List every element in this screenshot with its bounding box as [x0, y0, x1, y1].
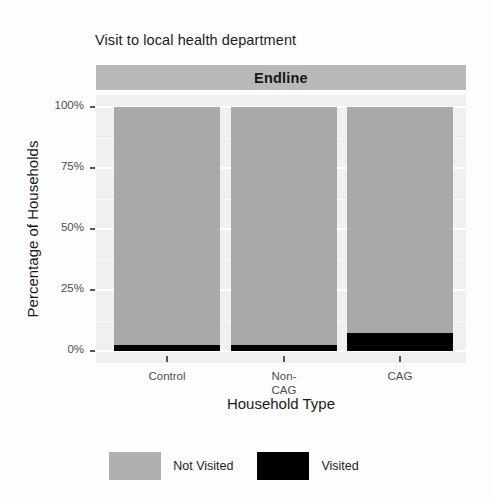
y-tick-mark — [90, 289, 95, 291]
bar-segment-visited — [347, 333, 453, 351]
bar-group — [114, 107, 220, 351]
bar-segment-not-visited — [114, 107, 220, 345]
legend-swatch — [257, 452, 309, 480]
legend-item[interactable]: Not Visited — [109, 452, 257, 480]
x-tick-label-line: CAG — [347, 369, 453, 383]
y-tick-label: 75% — [38, 160, 84, 172]
bar-segment-not-visited — [231, 107, 337, 345]
bar-segment-visited — [114, 345, 220, 351]
x-axis-title: Household Type — [96, 395, 466, 412]
y-tick-mark — [90, 106, 95, 108]
y-tick-mark — [90, 167, 95, 169]
x-tick-mark — [399, 356, 401, 362]
y-tick-mark — [90, 228, 95, 230]
x-tick-label: CAG — [347, 369, 453, 383]
y-tick-label: 0% — [38, 343, 84, 355]
chart-root: Visit to local health department Endline… — [0, 0, 492, 501]
legend-swatch — [109, 452, 161, 480]
facet-strip: Endline — [96, 65, 466, 90]
plot-panel — [96, 95, 466, 363]
y-tick-label: 25% — [38, 282, 84, 294]
legend-label: Visited — [321, 459, 358, 473]
x-tick-mark — [283, 356, 285, 362]
legend: Not VisitedVisited — [0, 452, 492, 480]
y-tick-mark — [90, 350, 95, 352]
legend-item[interactable]: Visited — [257, 452, 382, 480]
facet-strip-label: Endline — [254, 70, 308, 86]
legend-label: Not Visited — [173, 459, 233, 473]
y-tick-label: 100% — [38, 99, 84, 111]
x-tick-label: Non-CAG — [231, 369, 337, 397]
bar-segment-visited — [231, 345, 337, 351]
bar-segment-not-visited — [347, 107, 453, 333]
bar-group — [231, 107, 337, 351]
x-tick-label-line: Non- — [231, 369, 337, 383]
bar-group — [347, 107, 453, 351]
x-tick-mark — [166, 356, 168, 362]
plot-title: Visit to local health department — [95, 32, 296, 48]
x-tick-label-line: Control — [114, 369, 220, 383]
y-tick-label: 50% — [38, 221, 84, 233]
x-tick-label: Control — [114, 369, 220, 383]
